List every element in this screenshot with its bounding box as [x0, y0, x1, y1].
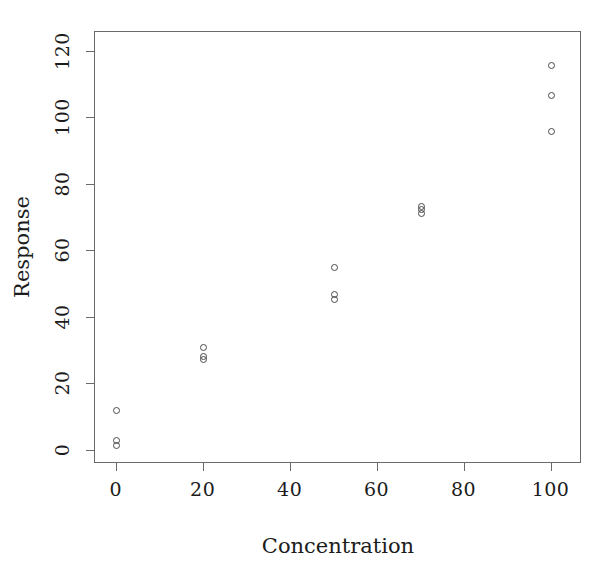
data-point	[200, 344, 207, 351]
y-axis-tick	[86, 117, 94, 118]
x-axis-tick	[551, 463, 552, 471]
y-axis-tick	[86, 383, 94, 384]
data-point	[548, 128, 555, 135]
data-point	[331, 264, 338, 271]
scatter-plot-figure: 020406080100120 020406080100 Response Co…	[0, 0, 602, 577]
data-point	[548, 62, 555, 69]
x-axis-tick-label: 60	[364, 478, 389, 500]
y-axis-tick	[86, 317, 94, 318]
x-axis-tick-label: 40	[277, 478, 302, 500]
y-axis-tick-label: 80	[51, 171, 73, 196]
data-point	[548, 92, 555, 99]
x-axis-tick	[464, 463, 465, 471]
data-point	[113, 442, 120, 449]
data-points-layer	[95, 32, 580, 462]
y-axis-tick-label: 60	[51, 238, 73, 263]
x-axis-tick	[377, 463, 378, 471]
data-point	[418, 210, 425, 217]
x-axis-tick	[116, 463, 117, 471]
data-point	[113, 407, 120, 414]
x-axis-tick	[203, 463, 204, 471]
y-axis-tick	[86, 51, 94, 52]
y-axis-tick	[86, 184, 94, 185]
y-axis-title: Response	[10, 196, 34, 298]
x-axis-tick-label: 100	[532, 478, 570, 500]
x-axis-tick	[290, 463, 291, 471]
data-point	[331, 296, 338, 303]
x-axis-title: Concentration	[262, 534, 414, 558]
y-axis-tick	[86, 250, 94, 251]
data-point	[200, 356, 207, 363]
y-axis-tick-label: 20	[51, 371, 73, 396]
y-axis-tick-label: 0	[51, 443, 73, 456]
y-axis-tick-label: 100	[51, 99, 73, 137]
x-axis-tick-label: 80	[451, 478, 476, 500]
plot-panel	[94, 31, 581, 463]
y-axis-tick	[86, 450, 94, 451]
x-axis-tick-label: 0	[109, 478, 122, 500]
y-axis-tick-label: 40	[51, 304, 73, 329]
x-axis-tick-label: 20	[190, 478, 215, 500]
y-axis-tick-label: 120	[51, 32, 73, 70]
